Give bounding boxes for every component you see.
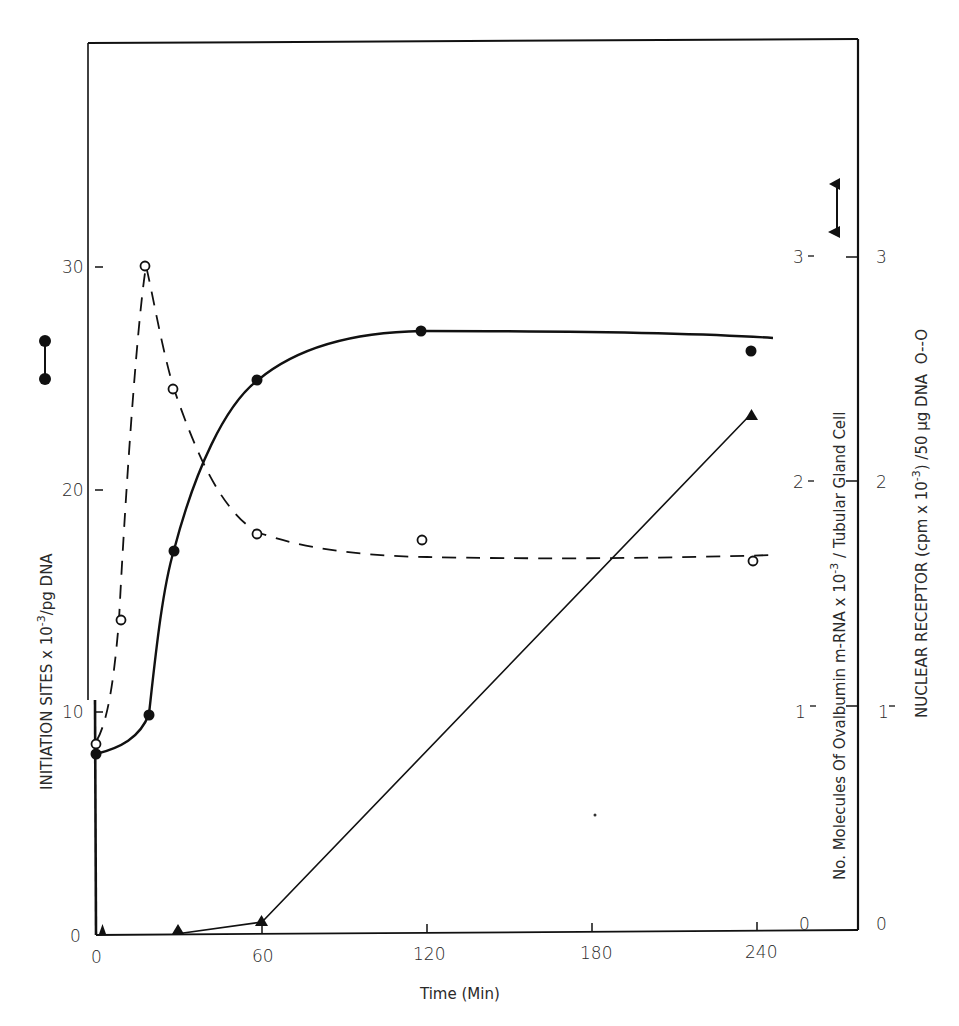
left-y-tick-labels: 30 20 10 0	[62, 257, 84, 946]
right-inner-tick-labels: 3 2 1 0	[793, 247, 810, 934]
svg-text:2: 2	[793, 472, 804, 492]
svg-text:60: 60	[252, 946, 274, 966]
svg-text:0: 0	[91, 947, 102, 967]
svg-text:240: 240	[745, 942, 777, 962]
mrna-line	[176, 413, 752, 934]
right-legend-triangle-icon	[828, 178, 840, 238]
svg-text:30: 30	[62, 257, 84, 277]
svg-text:120: 120	[413, 944, 445, 964]
svg-text:0: 0	[876, 914, 887, 934]
svg-text:2: 2	[876, 472, 887, 492]
svg-text:NUCLEAR RECEPTOR (cpm x 10-3): NUCLEAR RECEPTOR (cpm x 10-3) /50 µg DNA…	[910, 329, 931, 718]
svg-text:0: 0	[70, 926, 81, 946]
svg-text:10: 10	[62, 702, 84, 722]
right-outer-axis-title: NUCLEAR RECEPTOR (cpm x 10-3) /50 µg DNA…	[910, 329, 931, 718]
x-axis-title: Time (Min)	[419, 985, 500, 1003]
initiation-sites-curve	[96, 331, 773, 754]
svg-text:3: 3	[793, 247, 804, 267]
right-inner-axis-title: No. Molecules Of Ovalbumin m-RNA x 10-3 …	[828, 412, 849, 880]
svg-text:3: 3	[876, 247, 887, 267]
svg-text:1: 1	[795, 702, 806, 722]
svg-text:0: 0	[799, 914, 810, 934]
svg-text:INITIATION SITES x 10-3/pg DNA: INITIATION SITES x 10-3/pg DNA	[35, 553, 56, 790]
right-outer-tick-labels: 3 2 1 0	[876, 247, 889, 934]
left-axis-title: INITIATION SITES x 10-3/pg DNA	[35, 553, 56, 790]
chart: 30 20 10 0 0 60 120 180 240 Time (Min) 3…	[0, 0, 959, 1026]
plot-frame	[88, 39, 858, 930]
left-legend-filled-circle-icon	[39, 335, 51, 385]
svg-text:1: 1	[878, 702, 889, 722]
x-tick-labels: 0 60 120 180 240	[91, 942, 777, 967]
svg-text:180: 180	[580, 943, 612, 963]
svg-text:20: 20	[62, 480, 84, 500]
mrna-points	[99, 409, 758, 934]
left-y-axis	[95, 267, 103, 935]
nuclear-receptor-curve	[97, 266, 773, 740]
stray-mark	[594, 814, 597, 817]
svg-text:No. Molecules Of Ovalbumin m-R: No. Molecules Of Ovalbumin m-RNA x 10-3 …	[828, 412, 849, 880]
